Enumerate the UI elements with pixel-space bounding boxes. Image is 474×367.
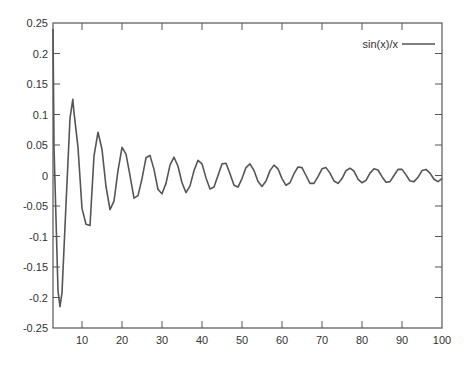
plot-frame: [53, 23, 442, 328]
y-tick-label: -0.05: [23, 200, 48, 212]
y-tick-label: 0.2: [33, 48, 48, 60]
x-tick-label: 10: [76, 334, 88, 346]
y-tick-label: 0: [42, 170, 48, 182]
x-tick-label: 30: [156, 334, 168, 346]
plot-axes: [53, 23, 442, 328]
line-chart: 1020304050607080901000.250.20.150.10.050…: [0, 0, 474, 367]
x-tick-label: 20: [116, 334, 128, 346]
y-tick-label: -0.15: [23, 261, 48, 273]
y-tick-label: -0.1: [29, 231, 48, 243]
y-tick-label: -0.2: [29, 292, 48, 304]
x-tick-label: 80: [356, 334, 368, 346]
y-tick-label: 0.15: [27, 78, 48, 90]
y-tick-label: 0.05: [27, 139, 48, 151]
x-tick-label: 60: [276, 334, 288, 346]
x-tick-label: 90: [396, 334, 408, 346]
legend: sin(x)/x: [363, 38, 435, 50]
y-tick-label: -0.25: [23, 322, 48, 334]
x-tick-label: 70: [316, 334, 328, 346]
axis-ticks: [53, 23, 442, 328]
y-tick-label: 0.1: [33, 109, 48, 121]
x-tick-label: 50: [236, 334, 248, 346]
x-tick-label: 40: [196, 334, 208, 346]
y-tick-label: 0.25: [27, 17, 48, 29]
series-line-sinx-over-x: [53, 29, 442, 307]
legend-label: sin(x)/x: [363, 38, 399, 50]
x-tick-label: 100: [433, 334, 451, 346]
